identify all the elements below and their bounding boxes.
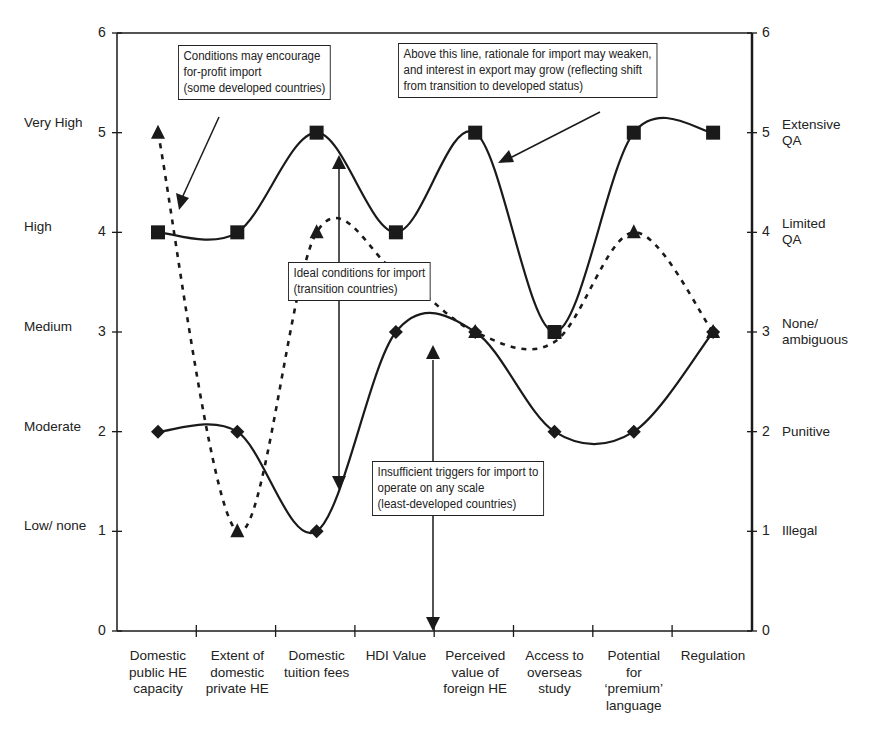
right-tick-label: 2: [762, 423, 770, 439]
left-tick-label: 3: [98, 323, 106, 339]
x-category-label: Perceivedvalue offoreign HE: [433, 648, 517, 698]
arrow-head-icon: [176, 193, 189, 210]
x-category-label: Extent ofdomesticprivate HE: [195, 648, 279, 698]
triangle-marker: [151, 125, 165, 139]
right-axis-category-label: Illegal: [782, 523, 817, 539]
arrow-for-profit-shaft: [182, 117, 219, 198]
square-marker: [627, 126, 641, 140]
square-marker: [468, 126, 482, 140]
arrow-head-icon: [498, 150, 514, 163]
right-tick-label: 0: [762, 622, 770, 638]
right-tick-label: 1: [762, 522, 770, 538]
series-line-square: [158, 118, 713, 332]
left-tick-label: 6: [98, 24, 106, 40]
right-axis-category-label: ExtensiveQA: [782, 117, 841, 149]
annotation-line: (least-developed countries): [378, 496, 539, 512]
right-axis-category-label: LimitedQA: [782, 216, 826, 248]
square-marker: [151, 225, 165, 239]
right-tick-label: 3: [762, 323, 770, 339]
annotation-for-profit: Conditions may encourage for-profit impo…: [178, 45, 331, 100]
annotation-line: (some developed countries): [184, 80, 326, 96]
arrow-head-up-icon: [426, 345, 440, 359]
x-category-label: HDI Value: [354, 648, 438, 665]
annotation-line: for-profit import: [184, 64, 326, 80]
x-category-label: Domesticpublic HEcapacity: [116, 648, 200, 698]
annotation-line: Ideal conditions for import: [294, 265, 426, 281]
annotation-line: from transition to developed status): [404, 78, 652, 94]
triangle-marker: [627, 224, 641, 238]
annotation-above-line: Above this line, rationale for import ma…: [398, 43, 657, 98]
right-axis-category-label: None/ambiguous: [782, 316, 848, 348]
square-marker: [706, 126, 720, 140]
left-tick-label: 0: [98, 622, 106, 638]
annotation-line: and interest in export may grow (reflect…: [404, 62, 652, 78]
right-tick-label: 6: [762, 24, 770, 40]
left-axis-category-label: Very High: [24, 115, 83, 131]
right-tick-label: 4: [762, 223, 770, 239]
annotation-ideal-conditions: Ideal conditions for import (transition …: [288, 262, 431, 301]
x-category-label: Domestictuition fees: [275, 648, 359, 681]
annotation-line: Insufficient triggers for import to: [378, 464, 539, 480]
annotation-line: Above this line, rationale for import ma…: [404, 46, 652, 62]
axes: [112, 33, 757, 637]
chart-canvas: [0, 0, 881, 740]
right-tick-label: 5: [762, 124, 770, 140]
left-tick-label: 2: [98, 423, 106, 439]
square-marker: [310, 126, 324, 140]
left-tick-label: 5: [98, 124, 106, 140]
left-axis-category-label: Low/ none: [24, 518, 86, 534]
annotation-arrows: [176, 112, 600, 631]
diamond-marker: [151, 425, 165, 439]
annotation-insufficient-triggers: Insufficient triggers for import to oper…: [372, 461, 544, 516]
square-marker: [548, 325, 562, 339]
annotation-line: (transition countries): [294, 281, 426, 297]
left-axis-category-label: Moderate: [24, 419, 81, 435]
arrow-head-down-icon: [332, 476, 346, 490]
square-marker: [230, 225, 244, 239]
x-category-label: Access tooverseasstudy: [513, 648, 597, 698]
arrow-head-down-icon: [426, 617, 440, 631]
left-axis-category-label: High: [24, 219, 52, 235]
annotation-line: Conditions may encourage: [184, 48, 326, 64]
right-axis-category-label: Punitive: [782, 424, 830, 440]
arrow-above-line-shaft: [510, 112, 600, 158]
left-tick-label: 1: [98, 522, 106, 538]
x-category-label: Regulation: [671, 648, 755, 665]
left-axis-category-label: Medium: [24, 319, 72, 335]
square-marker: [389, 225, 403, 239]
annotation-line: operate on any scale: [378, 480, 539, 496]
x-category-label: Potentialfor‘premium’language: [592, 648, 676, 714]
left-tick-label: 4: [98, 223, 106, 239]
